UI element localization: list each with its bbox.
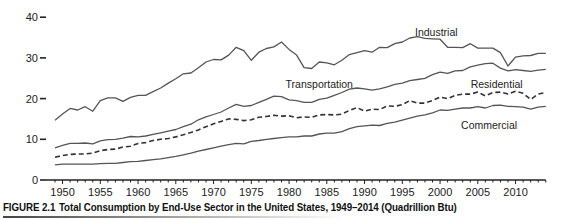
series-label-commercial: Commercial xyxy=(461,119,517,131)
x-tick-label: 2000 xyxy=(428,186,452,198)
caption-text: Total Consumption by End-Use Sector in t… xyxy=(59,201,457,213)
series-label-residential: Residential xyxy=(471,78,523,90)
figure-label: FIGURE 2.1 xyxy=(3,201,55,213)
y-axis: 010203040 xyxy=(26,11,46,186)
figure-caption: FIGURE 2.1Total Consumption by End-Use S… xyxy=(3,201,457,213)
line-chart: 010203040 195019551960196519701975198019… xyxy=(0,0,574,200)
series-line-commercial xyxy=(55,105,546,165)
series-line-transportation xyxy=(55,63,546,148)
y-tick-label: 0 xyxy=(32,174,38,186)
x-tick-label: 1955 xyxy=(88,186,112,198)
x-tick-label: 1970 xyxy=(201,186,225,198)
y-tick-label: 40 xyxy=(26,11,38,23)
x-tick-label: 1960 xyxy=(126,186,150,198)
x-tick-label: 1995 xyxy=(390,186,414,198)
x-tick-label: 1975 xyxy=(239,186,263,198)
series-lines xyxy=(55,37,546,165)
y-tick-label: 20 xyxy=(26,93,38,105)
y-tick-label: 30 xyxy=(26,52,38,64)
series-label-transportation: Transportation xyxy=(286,78,353,90)
series-label-industrial: Industrial xyxy=(415,26,458,38)
x-tick-label: 1990 xyxy=(352,186,376,198)
x-tick-label: 2010 xyxy=(503,186,527,198)
x-tick-label: 2005 xyxy=(466,186,490,198)
x-tick-label: 1965 xyxy=(164,186,188,198)
y-tick-label: 10 xyxy=(26,133,38,145)
x-tick-label: 1950 xyxy=(50,186,74,198)
x-axis: 1950195519601965197019751980198519901995… xyxy=(46,180,546,198)
x-tick-label: 1985 xyxy=(315,186,339,198)
x-tick-label: 1980 xyxy=(277,186,301,198)
caption-rule xyxy=(3,216,343,218)
